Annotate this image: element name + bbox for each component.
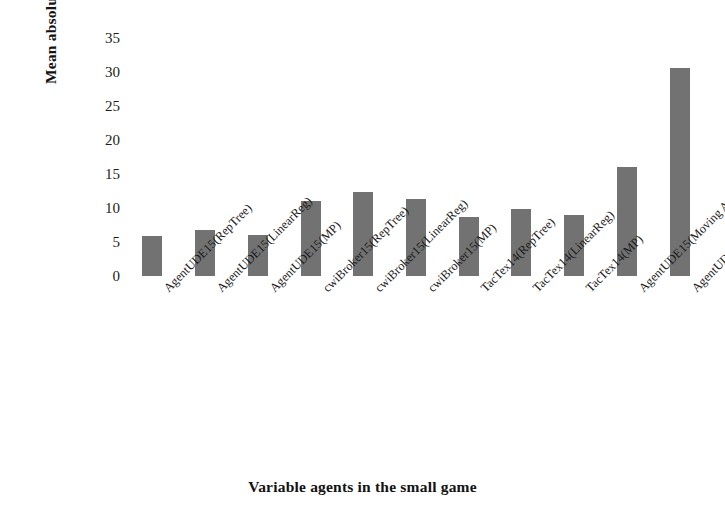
- x-axis-tick-label: cwiBroker15(LinearReg): [372, 285, 382, 295]
- x-axis-tick-label: AgentUDE15(Moving Avg): [636, 285, 646, 295]
- bar-chart: Mean absolute error 35302520151050 Agent…: [0, 0, 725, 532]
- x-axis-tick-label: AgentUDE15(LinearReg): [214, 285, 224, 295]
- x-axis-tick-labels: AgentUDE15(RepTree)AgentUDE15(LinearReg)…: [0, 0, 725, 532]
- x-axis-tick-label: TacTex14(LinearReg): [530, 285, 540, 295]
- x-axis-tick-label: AgentUDE15(MP): [267, 285, 277, 295]
- x-axis-tick-label: TacTex14(MP): [583, 285, 593, 295]
- x-axis-tick-label: cwiBroker15(MP): [425, 285, 435, 295]
- x-axis-tick-label: TacTex14(RepTree): [478, 285, 488, 295]
- x-axis-tick-label: AgentUDE15(RepTree-without Est): [689, 285, 699, 295]
- x-axis-title: Variable agents in the small game: [0, 478, 725, 496]
- x-axis-tick-label: cwiBroker15(RepTree): [320, 285, 330, 295]
- x-axis-tick-label: AgentUDE15(RepTree): [161, 285, 171, 295]
